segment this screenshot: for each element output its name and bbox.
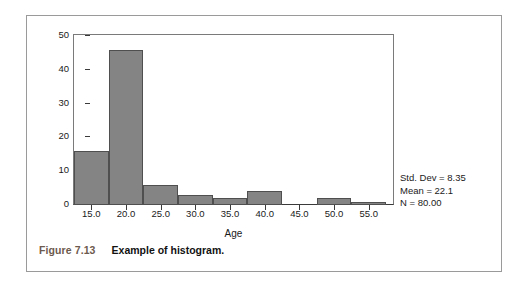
x-axis-tick-label: 45.0 (284, 209, 314, 219)
histogram-bar (178, 195, 213, 205)
x-axis-tick-mark (161, 205, 162, 210)
y-axis-tick-label: 30 (47, 98, 69, 108)
x-axis-tick-mark (265, 205, 266, 210)
caption-number: Figure 7.13 (39, 244, 96, 256)
x-axis-tick-label: 20.0 (111, 209, 141, 219)
x-axis-tick-mark (230, 205, 231, 210)
histogram-bar (143, 185, 178, 205)
histogram-chart: 01020304050 15.020.025.030.035.040.045.0… (27, 16, 503, 231)
histogram-bar (74, 151, 109, 205)
figure-caption: Figure 7.13 Example of histogram. (39, 244, 224, 256)
x-axis-tick-mark (126, 205, 127, 210)
histogram-bar (317, 198, 352, 205)
x-axis-tick-label: 50.0 (319, 209, 349, 219)
caption-text: Example of histogram. (112, 244, 225, 256)
x-axis-tick-label: 55.0 (354, 209, 384, 219)
x-axis-tick-label: 25.0 (146, 209, 176, 219)
x-axis-tick-mark (195, 205, 196, 210)
statistics-annotation: Std. Dev = 8.35 Mean = 22.1 N = 80.00 (400, 172, 466, 210)
y-axis-tick-label: 50 (47, 30, 69, 40)
stat-mean: Mean = 22.1 (400, 185, 466, 198)
histogram-bar (109, 50, 144, 205)
x-axis-tick-mark (369, 205, 370, 210)
y-axis-tick-label: 40 (47, 64, 69, 74)
x-axis-tick-label: 30.0 (180, 209, 210, 219)
histogram-bar (247, 191, 282, 205)
stat-std-dev: Std. Dev = 8.35 (400, 172, 466, 185)
histogram-bar (213, 198, 248, 205)
x-axis-title: Age (73, 228, 394, 239)
y-axis: 01020304050 (43, 16, 69, 231)
bars-layer (74, 35, 393, 205)
x-axis-tick-mark (299, 205, 300, 210)
x-axis-tick-label: 40.0 (250, 209, 280, 219)
x-axis-tick-mark (334, 205, 335, 210)
y-axis-tick-label: 20 (47, 131, 69, 141)
y-axis-tick-label: 0 (47, 199, 69, 209)
figure-container: 01020304050 15.020.025.030.035.040.045.0… (26, 15, 502, 272)
x-axis-tick-mark (91, 205, 92, 210)
y-axis-tick-label: 10 (47, 165, 69, 175)
stat-n: N = 80.00 (400, 197, 466, 210)
x-axis-tick-label: 35.0 (215, 209, 245, 219)
x-axis-tick-label: 15.0 (76, 209, 106, 219)
